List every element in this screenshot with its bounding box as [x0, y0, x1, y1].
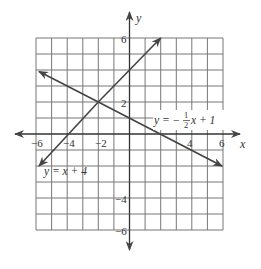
coordinate-plane: −6 −4 −2 4 6 6 2 −4 −6 x y y = x + 4 y =…	[0, 0, 261, 269]
line2-equation-prefix: y = −	[153, 114, 180, 127]
x-tick-label: 4	[187, 137, 193, 149]
y-tick-label: 2	[121, 97, 127, 109]
line-y-equals-neg-half-x-plus-1	[39, 72, 98, 103]
x-tick-label: −6	[31, 137, 43, 149]
line2-fraction-denominator: 2	[184, 120, 188, 130]
y-tick-label: 6	[121, 33, 127, 45]
y-tick-label: −6	[115, 225, 127, 237]
y-tick-label: −4	[115, 193, 127, 205]
line2-equation-suffix: x + 1	[190, 114, 215, 126]
x-tick-label: 6	[219, 137, 225, 149]
x-tick-label: −4	[63, 137, 75, 149]
line2-equation-label: y = − 1 2 x + 1	[153, 110, 224, 130]
x-axis-label: x	[239, 137, 246, 151]
y-axis-label: y	[135, 11, 142, 25]
line1-equation-label: y = x + 4	[43, 165, 87, 178]
x-tick-label: −2	[95, 137, 107, 149]
line2-fraction-numerator: 1	[184, 110, 188, 120]
